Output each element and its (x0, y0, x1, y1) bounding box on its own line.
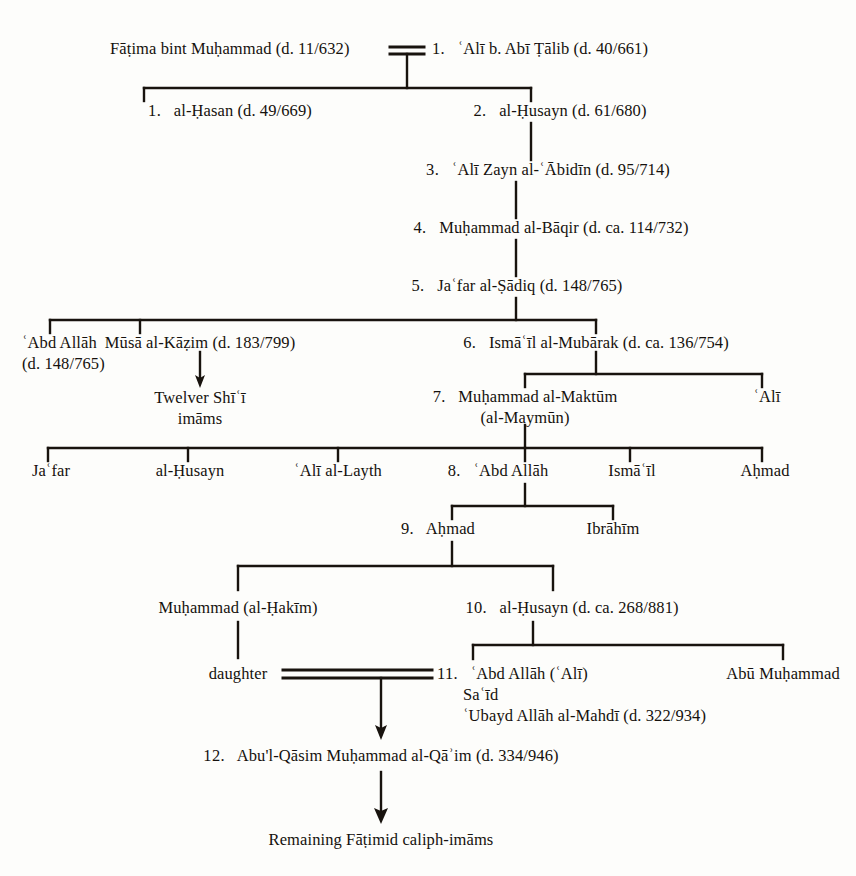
node-muhammad-al-maktum-number: 7. (433, 387, 446, 406)
node-abd-allah-8: 8. ʿAbd Allāh (448, 460, 548, 481)
node-abd-allah-11-label: ʿAbd Allāh (ʿAlī) (471, 664, 588, 683)
node-fatima: Fāṭima bint Muḥammad (d. 11/632) (110, 38, 350, 59)
node-ismail-2-label: Ismāʿīl (608, 461, 655, 480)
node-al-sadiq-label: Jaʿfar al-Ṣādiq (d. 148/765) (437, 276, 622, 295)
node-twelver-imams-label-2: imāms (154, 408, 245, 429)
node-al-baqir-number: 4. (414, 218, 427, 237)
node-ahmad-right-label: Aḥmad (740, 461, 789, 480)
node-ali-al-layth-label: ʿAlī al-Layth (294, 461, 382, 480)
node-ahmad-9-number: 9. (401, 519, 414, 538)
node-zayn-al-abidin: 3. ʿAlī Zayn al-ʿĀbidīn (d. 95/714) (426, 159, 670, 180)
node-daughter-label: daughter (209, 664, 268, 683)
node-ismail-al-mubarak-number: 6. (463, 333, 476, 352)
node-al-baqir-label: Muḥammad al-Bāqir (d. ca. 114/732) (439, 218, 688, 237)
node-jafar-label: Jaʿfar (32, 461, 70, 480)
node-jafar: Jaʿfar (32, 460, 70, 481)
node-abu-muhammad-label: Abū Muḥammad (726, 664, 839, 683)
node-ibrahim-label: Ibrāhīm (587, 519, 640, 538)
node-abd-allah-11-label-3: ʿUbayd Allāh al-Mahdī (d. 322/934) (437, 705, 706, 726)
node-al-baqir: 4. Muḥammad al-Bāqir (d. ca. 114/732) (414, 217, 689, 238)
node-al-sadiq: 5. Jaʿfar al-Ṣādiq (d. 148/765) (412, 275, 623, 296)
node-ibrahim: Ibrāhīm (587, 518, 640, 539)
node-zayn-al-abidin-label: ʿAlī Zayn al-ʿĀbidīn (d. 95/714) (452, 160, 670, 179)
node-muhammad-al-maktum-alias: (al-Maymūn) (433, 407, 618, 428)
genealogy-chart: Fāṭima bint Muḥammad (d. 11/632) 1. ʿAlī… (0, 0, 856, 876)
node-twelver-imams: Twelver Shīʿī imāms (154, 387, 245, 429)
node-abu-muhammad: Abū Muḥammad (726, 663, 839, 684)
node-al-husayn-10-label: al-Ḥusayn (d. ca. 268/881) (500, 598, 679, 617)
node-ali-abi-talib-label: ʿAlī b. Abī Ṭālib (d. 40/661) (458, 39, 648, 58)
node-abd-allah-148: ʿAbd Allāh (d. 148/765) (22, 332, 105, 374)
node-muhammad-al-maktum: 7. Muḥammad al-Maktūm (al-Maymūn) (433, 386, 618, 428)
node-abd-allah-11-number: 11. (437, 664, 458, 683)
node-muhammad-al-hakim-label: Muḥammad (al-Ḥakīm) (158, 598, 317, 617)
node-abd-allah-11: 11. ʿAbd Allāh (ʿAlī) Saʿīd ʿUbayd Allāh… (437, 663, 706, 726)
node-al-husayn-10-number: 10. (465, 598, 487, 617)
node-zayn-al-abidin-number: 3. (426, 160, 439, 179)
node-husayn-label: al-Ḥusayn (d. 61/680) (499, 101, 646, 120)
node-ali-abi-talib: 1. ʿAlī b. Abī Ṭālib (d. 40/661) (432, 38, 648, 59)
node-hasan-label: al-Ḥasan (d. 49/669) (174, 101, 312, 120)
node-al-qaim-label: Abu'l-Qāsim Muḥammad al-Qāʾim (d. 334/94… (237, 746, 559, 765)
node-al-sadiq-number: 5. (412, 276, 425, 295)
node-ali-son-of-ismail-label: ʿAlī (754, 387, 781, 406)
node-fatima-label: Fāṭima bint Muḥammad (d. 11/632) (110, 39, 350, 58)
node-husayn: 2. al-Ḥusayn (d. 61/680) (473, 100, 646, 121)
node-ali-abi-talib-number: 1. (432, 39, 445, 58)
node-remaining-fatimid: Remaining Fāṭimid caliph-imāms (269, 829, 494, 850)
node-al-husayn-10: 10. al-Ḥusayn (d. ca. 268/881) (465, 597, 678, 618)
node-ismail-al-mubarak: 6. Ismāʿīl al-Mubārak (d. ca. 136/754) (463, 332, 729, 353)
node-hasan-number: 1. (148, 101, 161, 120)
node-ahmad-9: 9. Aḥmad (401, 518, 475, 539)
node-ahmad-right: Aḥmad (740, 460, 789, 481)
node-musa-al-kazim: Mūsā al-Kāẓim (d. 183/799) (105, 332, 295, 353)
node-ahmad-9-label: Aḥmad (426, 519, 475, 538)
node-hasan: 1. al-Ḥasan (d. 49/669) (148, 100, 312, 121)
node-abd-allah-148-death: (d. 148/765) (22, 353, 105, 374)
node-muhammad-al-maktum-label: Muḥammad al-Maktūm (458, 387, 617, 406)
node-al-qaim: 12. Abu'l-Qāsim Muḥammad al-Qāʾim (d. 33… (203, 745, 558, 766)
node-ismail-2: Ismāʿīl (608, 460, 655, 481)
node-musa-al-kazim-label: Mūsā al-Kāẓim (d. 183/799) (105, 333, 295, 352)
node-remaining-fatimid-label: Remaining Fāṭimid caliph-imāms (269, 830, 494, 849)
node-al-husayn-2-label: al-Ḥusayn (156, 461, 225, 480)
node-husayn-number: 2. (473, 101, 486, 120)
node-abd-allah-148-label: ʿAbd Allāh (22, 333, 97, 352)
node-ali-son-of-ismail: ʿAlī (754, 386, 781, 407)
node-daughter: daughter (209, 663, 268, 684)
node-abd-allah-8-number: 8. (448, 461, 461, 480)
node-al-qaim-number: 12. (203, 746, 225, 765)
node-ali-al-layth: ʿAlī al-Layth (294, 460, 382, 481)
node-twelver-imams-label: Twelver Shīʿī (154, 388, 245, 407)
node-abd-allah-8-label: ʿAbd Allāh (473, 461, 548, 480)
node-abd-allah-11-label-2: Saʿīd (437, 684, 706, 705)
node-al-husayn-2: al-Ḥusayn (156, 460, 225, 481)
node-ismail-al-mubarak-label: Ismāʿīl al-Mubārak (d. ca. 136/754) (489, 333, 729, 352)
node-muhammad-al-hakim: Muḥammad (al-Ḥakīm) (158, 597, 317, 618)
